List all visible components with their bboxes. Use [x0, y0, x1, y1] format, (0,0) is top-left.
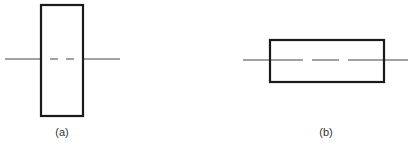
- figure-b: (b): [243, 40, 408, 138]
- label-b: (b): [319, 126, 332, 138]
- rectangle-b: [270, 40, 384, 82]
- label-a: (a): [55, 126, 68, 138]
- figure-a: (a): [5, 5, 120, 138]
- diagram-canvas: (a) (b): [0, 0, 412, 149]
- rectangle-a: [41, 5, 83, 116]
